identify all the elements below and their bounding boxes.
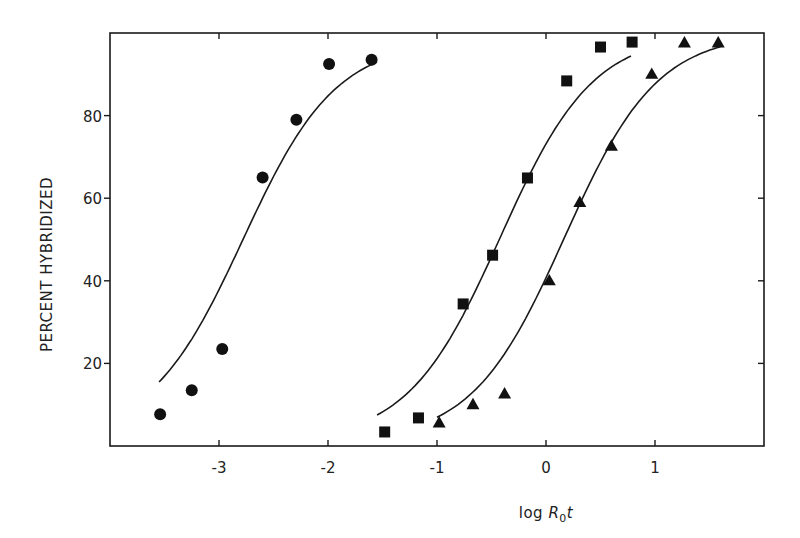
y-tick-label: 60 [83, 190, 102, 208]
triangle-marker [573, 195, 586, 206]
square-marker [458, 298, 469, 309]
x-tick-label: -2 [321, 459, 336, 477]
x-axis-title-var: R [548, 504, 559, 522]
circle-marker [186, 384, 198, 396]
triangle-marker [433, 416, 446, 427]
triangle-marker [466, 398, 479, 409]
square-marker [379, 426, 390, 437]
y-tick-label: 20 [83, 355, 102, 373]
y-tick-label: 40 [83, 273, 102, 291]
triangle-marker [678, 36, 691, 47]
y-tick-label: 80 [83, 108, 102, 126]
circle-marker [154, 408, 166, 420]
triangle-marker [645, 67, 658, 78]
hybridization-chart: -3-2-10120406080 PERCENT HYBRIDIZED log … [0, 0, 800, 538]
plot-frame [110, 33, 764, 446]
triangle-marker [605, 139, 618, 150]
x-tick-label: -1 [430, 459, 445, 477]
x-tick-label: 1 [650, 459, 660, 477]
x-axis-title-suffix: t [567, 504, 574, 522]
circle-marker [257, 172, 269, 184]
axis-tick-labels: -3-2-10120406080 [83, 108, 660, 477]
square-marker [627, 37, 638, 48]
x-tick-label: 0 [541, 459, 551, 477]
square-marker [522, 172, 533, 183]
x-axis-title: log R0t [519, 504, 574, 525]
squares-fit-curve [377, 56, 631, 415]
circle-marker [323, 58, 335, 70]
y-axis-title: PERCENT HYBRIDIZED [38, 177, 56, 352]
fit-curves [159, 47, 720, 418]
circles-fit-curve [159, 62, 377, 382]
circle-marker [366, 54, 378, 66]
circle-marker [290, 114, 302, 126]
square-marker [487, 250, 498, 261]
triangles-fit-curve [437, 47, 720, 418]
square-marker [595, 42, 606, 53]
axis-ticks [104, 33, 764, 446]
square-marker [413, 412, 424, 423]
data-markers [154, 36, 725, 437]
square-marker [561, 75, 572, 86]
triangle-marker [498, 387, 511, 398]
triangle-marker [712, 36, 725, 47]
circle-marker [216, 343, 228, 355]
x-tick-label: -3 [212, 459, 227, 477]
x-axis-title-prefix: log [519, 504, 549, 522]
x-axis-title-sub: 0 [559, 512, 567, 525]
